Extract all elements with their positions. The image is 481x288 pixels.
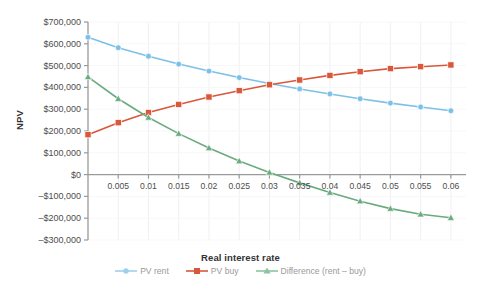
legend-marker-circle-icon: [115, 266, 137, 276]
data-point-pv-buy: [357, 69, 363, 75]
y-axis-tick-label: $0: [20, 170, 81, 180]
x-axis-tick-label: 0.01: [140, 181, 157, 191]
y-axis-tick-label: $600,000: [20, 39, 81, 49]
x-axis-tick-label: 0.04: [322, 181, 339, 191]
data-point-pv-buy: [85, 132, 91, 138]
legend-marker-square-icon: [186, 266, 208, 276]
legend-marker-triangle-icon: [256, 266, 278, 276]
x-axis-tick-label: 0.06: [443, 181, 460, 191]
y-axis-tick-label: –$200,000: [20, 213, 81, 223]
y-axis-tick-label: $400,000: [20, 82, 81, 92]
data-point-pv-buy: [297, 77, 303, 83]
data-point-pv-buy: [327, 72, 333, 78]
chart-legend: PV rentPV buyDifference (rent – buy): [0, 266, 481, 276]
x-axis-tick-label: 0.055: [410, 181, 432, 191]
data-point-pv-buy: [115, 120, 121, 126]
data-point-pv-rent: [357, 96, 363, 102]
data-point-pv-rent: [85, 34, 91, 40]
x-axis-tick-label: 0.015: [168, 181, 190, 191]
data-point-pv-buy: [206, 94, 212, 100]
data-point-pv-rent: [236, 75, 242, 81]
legend-label: Difference (rent – buy): [281, 266, 366, 276]
data-point-pv-rent: [115, 45, 121, 51]
legend-item-pv-buy[interactable]: PV buy: [186, 266, 239, 276]
data-point-pv-rent: [327, 91, 333, 97]
data-point-pv-rent: [146, 53, 152, 59]
data-point-pv-buy: [448, 62, 454, 68]
y-axis-tick-label: –$100,000: [20, 191, 81, 201]
legend-item-difference-rent-buy[interactable]: Difference (rent – buy): [256, 266, 366, 276]
data-point-pv-buy: [266, 82, 272, 88]
data-point-pv-buy: [418, 64, 424, 70]
x-axis-tick-label: 0.045: [349, 181, 371, 191]
legend-label: PV rent: [140, 266, 169, 276]
npv-line-chart: NPV Real interest rate $700,000$600,000$…: [0, 0, 481, 288]
data-point-pv-rent: [388, 100, 394, 106]
x-axis-tick-label: 0.035: [289, 181, 311, 191]
x-axis-title: Real interest rate: [0, 252, 481, 263]
data-point-difference-rent-buy: [84, 73, 91, 79]
y-axis-tick-label: $200,000: [20, 126, 81, 136]
x-axis-tick-label: 0.03: [261, 181, 278, 191]
data-point-pv-rent: [176, 61, 182, 67]
y-axis-tick-label: –$300,000: [20, 235, 81, 245]
y-axis-tick-label: $500,000: [20, 61, 81, 71]
x-axis-tick-label: 0.025: [228, 181, 250, 191]
data-point-pv-rent: [418, 104, 424, 110]
data-point-pv-buy: [176, 101, 182, 107]
y-axis-tick-label: $100,000: [20, 148, 81, 158]
data-point-pv-buy: [236, 88, 242, 94]
legend-label: PV buy: [211, 266, 239, 276]
data-point-pv-rent: [206, 68, 212, 74]
y-axis-tick-label: $300,000: [20, 104, 81, 114]
legend-item-pv-rent[interactable]: PV rent: [115, 266, 169, 276]
data-point-pv-buy: [387, 66, 393, 72]
data-point-pv-rent: [297, 86, 303, 92]
x-axis-tick-label: 0.05: [382, 181, 399, 191]
x-axis-tick-label: 0.02: [201, 181, 218, 191]
y-axis-tick-label: $700,000: [20, 17, 81, 27]
data-point-pv-rent: [448, 108, 454, 114]
x-axis-tick-label: 0.005: [107, 181, 129, 191]
